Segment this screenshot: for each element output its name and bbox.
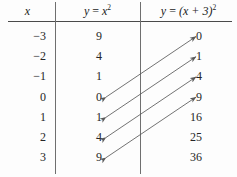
cell-y-x-plus-3-squared-row-2: 1 <box>140 48 202 65</box>
cell-y-x-squared-row-5: 1 <box>55 109 102 126</box>
header-underline <box>8 21 232 22</box>
column-header-y-equals-x-squared: y = x2 <box>55 2 140 20</box>
column-header-y-equals-x-plus-3-squared: y = (x + 3)2 <box>140 2 237 20</box>
math-table-figure: x y = x2 y = (x + 3)2 −390−241−114009111… <box>0 0 237 177</box>
cell-y-x-squared-row-2: 4 <box>55 48 102 65</box>
cell-y-x-plus-3-squared-row-6: 25 <box>140 129 202 146</box>
cell-y-x-plus-3-squared-row-1: 0 <box>140 28 202 45</box>
header-y1-exponent: 2 <box>107 3 111 12</box>
cell-y-x-squared-row-4: 0 <box>55 89 102 106</box>
column-header-x-label: x <box>25 4 30 18</box>
cell-x-row-2: −2 <box>0 48 46 65</box>
header-y1-equals: = <box>89 4 102 18</box>
cell-y-x-plus-3-squared-row-3: 4 <box>140 68 202 85</box>
header-y2-base: (x + 3) <box>179 4 212 18</box>
cell-x-row-3: −1 <box>0 68 46 85</box>
cell-y-x-squared-row-3: 1 <box>55 68 102 85</box>
cell-y-x-plus-3-squared-row-4: 9 <box>140 89 202 106</box>
cell-y-x-plus-3-squared-row-7: 36 <box>140 149 202 166</box>
cell-y-x-plus-3-squared-row-5: 16 <box>140 109 202 126</box>
cell-x-row-5: 1 <box>0 109 46 126</box>
cell-y-x-squared-row-1: 9 <box>55 28 102 45</box>
cell-x-row-7: 3 <box>0 149 46 166</box>
header-y2-exponent: 2 <box>212 3 216 12</box>
cell-x-row-6: 2 <box>0 129 46 146</box>
column-header-x: x <box>0 2 55 20</box>
cell-x-row-1: −3 <box>0 28 46 45</box>
header-y2-equals: = <box>166 4 179 18</box>
cell-x-row-4: 0 <box>0 89 46 106</box>
cell-y-x-squared-row-7: 9 <box>55 149 102 166</box>
cell-y-x-squared-row-6: 4 <box>55 129 102 146</box>
